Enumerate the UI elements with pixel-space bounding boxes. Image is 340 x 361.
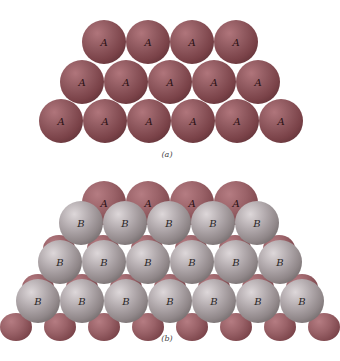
sphere-label: B — [188, 257, 195, 268]
sphere-label: A — [166, 77, 173, 88]
a-sphere: A — [39, 99, 83, 143]
sphere-label: A — [122, 77, 129, 88]
a-sphere: A — [60, 60, 104, 104]
a-sphere: A — [82, 20, 126, 64]
a-sphere: A — [83, 99, 127, 143]
b-sphere: B — [60, 279, 104, 323]
sphere-label: A — [101, 116, 108, 127]
sphere-label: B — [56, 257, 63, 268]
b-sphere: B — [126, 240, 170, 284]
sphere-label: B — [121, 218, 128, 229]
sphere-label: B — [166, 296, 173, 307]
sphere-label: A — [210, 77, 217, 88]
sphere-label: B — [209, 218, 216, 229]
a-sphere: A — [215, 99, 259, 143]
a-sphere: A — [104, 60, 148, 104]
sphere-label: A — [57, 116, 64, 127]
a-sphere: A — [126, 20, 170, 64]
sphere-label: A — [144, 37, 151, 48]
sphere-label: B — [122, 296, 129, 307]
b-sphere: B — [236, 279, 280, 323]
b-sphere: B — [192, 279, 236, 323]
sphere-label: A — [189, 116, 196, 127]
b-sphere: B — [170, 240, 214, 284]
sphere-label: B — [34, 296, 41, 307]
b-sphere: B — [59, 201, 103, 245]
a-sphere: A — [171, 99, 215, 143]
a-sphere: A — [170, 20, 214, 64]
sphere-label: B — [232, 257, 239, 268]
sphere-label: A — [100, 37, 107, 48]
sphere-label: B — [77, 218, 84, 229]
sphere-label: A — [144, 198, 151, 209]
sphere-label: B — [100, 257, 107, 268]
b-sphere: B — [147, 201, 191, 245]
sphere-label: A — [78, 77, 85, 88]
b-sphere: B — [16, 279, 60, 323]
b-sphere: B — [82, 240, 126, 284]
sphere-label: B — [253, 218, 260, 229]
sphere-label: A — [188, 198, 195, 209]
b-sphere: B — [104, 279, 148, 323]
caption-b: (b) — [147, 334, 187, 343]
sphere-label: A — [233, 116, 240, 127]
b-sphere: B — [235, 201, 279, 245]
sphere-label: B — [144, 257, 151, 268]
sphere-label: A — [232, 37, 239, 48]
b-sphere: B — [280, 279, 324, 323]
sphere-label: A — [232, 198, 239, 209]
sphere-label: A — [100, 198, 107, 209]
sphere-label: A — [145, 116, 152, 127]
a-sphere: A — [236, 60, 280, 104]
a-sphere: A — [127, 99, 171, 143]
b-sphere: B — [103, 201, 147, 245]
a-sphere: A — [192, 60, 236, 104]
caption-a: (a) — [147, 150, 187, 159]
sphere-label: A — [277, 116, 284, 127]
a-sphere: A — [259, 99, 303, 143]
panel-b-layer-b-on-a: AAAABBBBBBBBBBBBBBBBBB (b) — [0, 180, 333, 361]
b-sphere: B — [191, 201, 235, 245]
sphere-label: B — [78, 296, 85, 307]
sphere-label: B — [165, 218, 172, 229]
panel-a-layer-a: BBBBBBBBBAAAAAAAAAAAAAAA (a) — [0, 0, 333, 180]
b-sphere: B — [258, 240, 302, 284]
a-sphere: A — [214, 20, 258, 64]
b-sphere: B — [148, 279, 192, 323]
sphere-label: B — [298, 296, 305, 307]
a-sphere: A — [148, 60, 192, 104]
sphere-label: B — [210, 296, 217, 307]
sphere-label: A — [254, 77, 261, 88]
b-sphere: B — [214, 240, 258, 284]
sphere-label: B — [254, 296, 261, 307]
sphere-label: A — [188, 37, 195, 48]
sphere-label: B — [276, 257, 283, 268]
b-sphere: B — [38, 240, 82, 284]
